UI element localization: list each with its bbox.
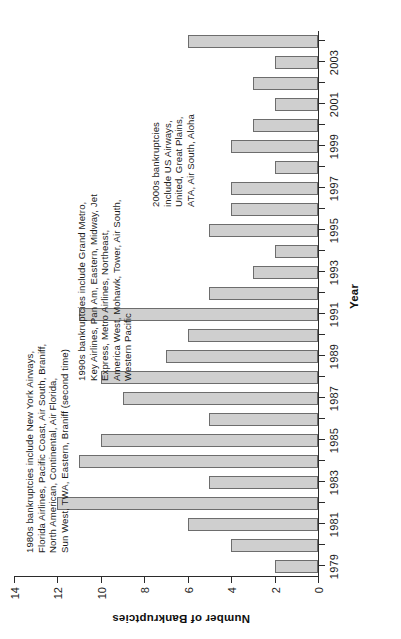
category-axis-tick (319, 461, 325, 462)
category-axis-tick-label: 2001 (328, 92, 340, 117)
category-axis-tick-label: 1983 (328, 470, 340, 495)
value-axis-tick-label-wrap: 10 (92, 587, 110, 639)
category-axis-tick-label: 1991 (328, 302, 340, 327)
bar (231, 203, 318, 216)
category-axis-tick-label: 2003 (328, 50, 340, 75)
value-axis-tick (57, 577, 58, 583)
bar (275, 560, 318, 573)
value-axis-tick-label: 0 (313, 587, 325, 593)
bar (253, 119, 318, 132)
category-axis-tick (319, 188, 325, 189)
bar (275, 161, 318, 174)
category-axis-tick (319, 104, 325, 105)
bar (188, 329, 318, 342)
bar (101, 434, 318, 447)
annotation-2000s: 2000s bankruptcies include US Airways, U… (150, 114, 196, 207)
category-axis-tick (319, 272, 325, 273)
category-axis-tick-label: 1999 (328, 134, 340, 159)
value-axis-tick-label-wrap: 14 (5, 587, 23, 639)
category-axis-tick (319, 545, 325, 546)
value-axis-tick (231, 577, 232, 583)
category-axis-tick-label: 1995 (328, 218, 340, 243)
bar (123, 392, 318, 405)
value-axis-tick (14, 577, 15, 583)
category-axis-tick (319, 482, 325, 483)
bar (166, 350, 318, 363)
category-axis-tick (319, 419, 325, 420)
x-axis-title: Year (348, 284, 360, 309)
value-axis-tick-label: 10 (96, 587, 108, 599)
category-axis-tick (319, 146, 325, 147)
category-axis-tick (319, 335, 325, 336)
category-axis-tick-label: 1981 (328, 512, 340, 537)
value-axis-tick-label: 14 (9, 587, 21, 599)
category-axis-tick (319, 83, 325, 84)
category-axis-tick (319, 440, 325, 441)
category-axis-tick (319, 167, 325, 168)
bar (57, 497, 318, 510)
bar (275, 98, 318, 111)
category-axis-tick (319, 524, 325, 525)
category-axis-tick (319, 41, 325, 42)
value-axis-tick-label: 8 (139, 587, 151, 593)
bar (231, 539, 318, 552)
bar (188, 518, 318, 531)
category-axis-tick (319, 314, 325, 315)
category-axis-tick-label: 1987 (328, 386, 340, 411)
annotation-1990s: 1990s bankruptcies include Grand Metro, … (76, 194, 134, 381)
rotated-chart-wrapper: 02468101214 1979198119831985198719891991… (0, 0, 401, 639)
value-axis-tick (188, 577, 189, 583)
category-axis-tick (319, 230, 325, 231)
category-axis-tick-label: 1989 (328, 344, 340, 369)
category-axis-tick (319, 566, 325, 567)
value-axis-tick-label: 2 (270, 587, 282, 593)
bar (253, 77, 318, 90)
value-axis-tick (101, 577, 102, 583)
category-axis-tick (319, 125, 325, 126)
value-axis-tick (318, 577, 319, 583)
bar (79, 455, 318, 468)
value-axis-tick-label-wrap: 0 (309, 587, 327, 639)
category-axis-tick-label: 1997 (328, 176, 340, 201)
category-axis-tick (319, 209, 325, 210)
y-axis-title: Number of Bankruptcies (112, 613, 250, 625)
bar (188, 35, 318, 48)
value-axis-tick-label: 6 (183, 587, 195, 593)
value-axis-tick-label-wrap: 12 (48, 587, 66, 639)
value-axis-tick-label: 12 (52, 587, 64, 599)
category-axis-tick-label: 1993 (328, 260, 340, 285)
category-axis-line (318, 31, 319, 577)
bankruptcies-bar-chart: 02468101214 1979198119831985198719891991… (0, 0, 401, 639)
value-axis-tick (275, 577, 276, 583)
bar (275, 56, 318, 69)
value-axis-tick-label-wrap: 2 (266, 587, 284, 639)
category-axis-tick (319, 62, 325, 63)
bar (231, 182, 318, 195)
category-axis-tick (319, 398, 325, 399)
bar (209, 287, 318, 300)
bar (253, 266, 318, 279)
annotation-1980s: 1980s bankruptcies include New York Airw… (24, 344, 70, 553)
category-axis-tick (319, 251, 325, 252)
bar (209, 224, 318, 237)
category-axis-tick-label: 1985 (328, 428, 340, 453)
bar (209, 476, 318, 489)
value-axis-tick-label: 4 (226, 587, 238, 593)
bar (209, 413, 318, 426)
category-axis-tick (319, 293, 325, 294)
category-axis-tick (319, 356, 325, 357)
bar (275, 245, 318, 258)
value-axis-tick (144, 577, 145, 583)
category-axis-tick-label: 1979 (328, 554, 340, 579)
category-axis-tick (319, 503, 325, 504)
bar (231, 140, 318, 153)
category-axis-tick (319, 377, 325, 378)
